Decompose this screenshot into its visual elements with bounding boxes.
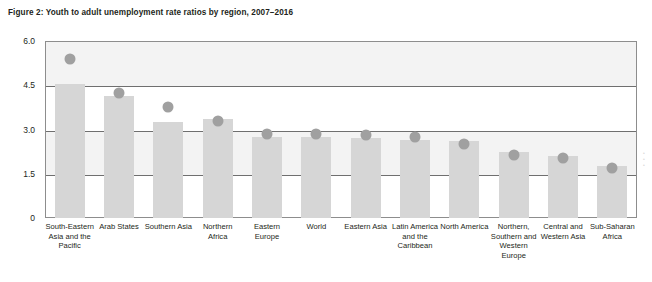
- x-tick-label: North America: [440, 222, 489, 232]
- bar-group[interactable]: [193, 41, 242, 218]
- data-point-marker[interactable]: [212, 115, 223, 126]
- x-tick-label: Sub-Saharan Africa: [588, 222, 637, 241]
- bar[interactable]: [104, 96, 134, 218]
- x-tick-label: South-Eastern Asia and the Pacific: [45, 222, 94, 251]
- bar[interactable]: [252, 137, 282, 218]
- bar[interactable]: [351, 138, 381, 218]
- y-tick-label: 1.5: [23, 169, 35, 179]
- y-axis: 01.53.04.56.0: [0, 41, 42, 221]
- x-tick-label: Central and Western Asia: [538, 222, 587, 241]
- bar-group[interactable]: [94, 41, 143, 218]
- figure-title: Figure 2: Youth to adult unemployment ra…: [8, 8, 293, 17]
- bar-group[interactable]: [242, 41, 291, 218]
- data-point-marker[interactable]: [459, 139, 470, 150]
- x-tick-label: Arab States: [94, 222, 143, 232]
- bar[interactable]: [597, 166, 627, 218]
- bar-group[interactable]: [440, 41, 489, 218]
- x-tick-label: Latin America and the Caribbean: [390, 222, 439, 251]
- y-tick-label: 3.0: [23, 125, 35, 135]
- data-point-marker[interactable]: [409, 131, 420, 142]
- bars-layer: [45, 41, 637, 218]
- bar[interactable]: [301, 137, 331, 218]
- bar-group[interactable]: [538, 41, 587, 218]
- y-tick-label: 4.5: [23, 80, 35, 90]
- x-axis-labels: South-Eastern Asia and the PacificArab S…: [45, 222, 637, 280]
- x-tick-label: Northern, Southern and Western Europe: [489, 222, 538, 260]
- x-tick-label: Southern Asia: [144, 222, 193, 232]
- bar[interactable]: [153, 122, 183, 218]
- data-point-marker[interactable]: [508, 149, 519, 160]
- data-point-marker[interactable]: [557, 152, 568, 163]
- bar[interactable]: [203, 119, 233, 218]
- bar-group[interactable]: [588, 41, 637, 218]
- bar-group[interactable]: [489, 41, 538, 218]
- scan-artifact-mark: •: [643, 162, 650, 168]
- data-point-marker[interactable]: [311, 128, 322, 139]
- data-point-marker[interactable]: [64, 53, 75, 64]
- data-point-marker[interactable]: [113, 87, 124, 98]
- x-tick-label: Eastern Asia: [341, 222, 390, 232]
- bar-group[interactable]: [390, 41, 439, 218]
- y-tick-label: 6.0: [23, 36, 35, 46]
- y-tick-label: 0: [30, 213, 35, 223]
- bar[interactable]: [449, 141, 479, 218]
- bar-group[interactable]: [45, 41, 94, 218]
- bar[interactable]: [400, 140, 430, 218]
- x-tick-label: Eastern Europe: [242, 222, 291, 241]
- x-tick-label: Northern Africa: [193, 222, 242, 241]
- bar-group[interactable]: [144, 41, 193, 218]
- bar-group[interactable]: [341, 41, 390, 218]
- data-point-marker[interactable]: [607, 163, 618, 174]
- data-point-marker[interactable]: [360, 130, 371, 141]
- bar[interactable]: [55, 84, 85, 218]
- bar-group[interactable]: [292, 41, 341, 218]
- bar[interactable]: [548, 156, 578, 218]
- scan-artifact: • • •: [643, 150, 650, 168]
- data-point-marker[interactable]: [261, 128, 272, 139]
- bar[interactable]: [499, 152, 529, 218]
- data-point-marker[interactable]: [163, 102, 174, 113]
- x-tick-label: World: [292, 222, 341, 232]
